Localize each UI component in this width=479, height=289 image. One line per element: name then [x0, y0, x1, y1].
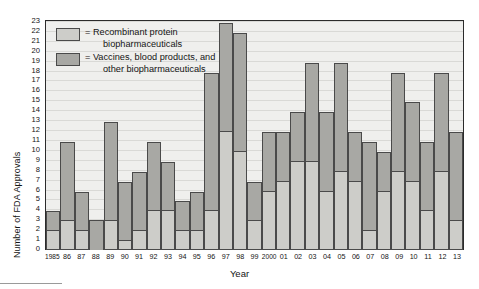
bar-segment-recombinant[interactable] — [377, 191, 391, 250]
y-tick-label: 6 — [36, 186, 40, 194]
bar-segment-recombinant[interactable] — [319, 191, 333, 250]
y-tick-label: 22 — [32, 27, 40, 35]
bar-segment-recombinant[interactable] — [449, 220, 463, 250]
y-tick-label: 23 — [32, 17, 40, 25]
x-tick-label: 90 — [117, 251, 131, 265]
x-tick-label: 99 — [247, 251, 261, 265]
legend-item: = Vaccines, blood products, and other bi… — [56, 52, 215, 75]
bar-column[interactable] — [434, 21, 448, 249]
bar-column[interactable] — [305, 21, 319, 249]
legend: = Recombinant protein biopharmaceuticals… — [56, 27, 215, 77]
bar-segment-recombinant[interactable] — [219, 131, 233, 250]
bar-segment-vaccines[interactable] — [204, 73, 218, 212]
legend-label-recombinant: = Recombinant protein biopharmaceuticals — [85, 27, 182, 50]
bar-column[interactable] — [405, 21, 419, 249]
bar-segment-vaccines[interactable] — [175, 201, 189, 231]
bar-segment-recombinant[interactable] — [46, 230, 60, 250]
bar-segment-vaccines[interactable] — [391, 73, 405, 172]
bar-segment-recombinant[interactable] — [204, 210, 218, 250]
bar-segment-recombinant[interactable] — [348, 181, 362, 250]
bar-column[interactable] — [290, 21, 304, 249]
bar-segment-vaccines[interactable] — [190, 192, 204, 232]
bar-segment-vaccines[interactable] — [420, 142, 434, 211]
bar-segment-recombinant[interactable] — [161, 210, 175, 250]
bar-column[interactable] — [391, 21, 405, 249]
bar-segment-vaccines[interactable] — [75, 192, 89, 232]
y-tick-label: 10 — [32, 146, 40, 154]
x-axis-title: Year — [0, 268, 479, 279]
bar-segment-vaccines[interactable] — [118, 182, 132, 241]
x-tick-label: 03 — [305, 251, 319, 265]
y-tick-label: 0 — [36, 245, 40, 253]
bar-segment-vaccines[interactable] — [247, 182, 261, 222]
bar-segment-vaccines[interactable] — [305, 63, 319, 162]
bar-segment-vaccines[interactable] — [319, 112, 333, 191]
bar-segment-recombinant[interactable] — [334, 171, 348, 250]
bar-segment-vaccines[interactable] — [434, 73, 448, 172]
bar-segment-recombinant[interactable] — [290, 161, 304, 250]
bar-segment-recombinant[interactable] — [175, 230, 189, 250]
bar-column[interactable] — [449, 21, 463, 249]
y-tick-label: 12 — [32, 126, 40, 134]
bar-segment-recombinant[interactable] — [104, 220, 118, 250]
bar-segment-vaccines[interactable] — [290, 112, 304, 162]
bar-segment-vaccines[interactable] — [348, 132, 362, 182]
bar-segment-vaccines[interactable] — [449, 132, 463, 221]
bar-segment-vaccines[interactable] — [233, 33, 247, 152]
bar-segment-vaccines[interactable] — [60, 142, 74, 221]
x-tick-label: 86 — [60, 251, 74, 265]
y-tick-label: 14 — [32, 106, 40, 114]
bar-segment-recombinant[interactable] — [262, 191, 276, 250]
bar-column[interactable] — [219, 21, 233, 249]
y-tick-label: 20 — [32, 47, 40, 55]
x-tick-label: 07 — [363, 251, 377, 265]
bar-segment-vaccines[interactable] — [46, 211, 60, 231]
y-tick-label: 8 — [36, 166, 40, 174]
bar-column[interactable] — [362, 21, 376, 249]
bar-segment-vaccines[interactable] — [161, 162, 175, 212]
bar-segment-vaccines[interactable] — [262, 132, 276, 191]
bar-segment-vaccines[interactable] — [362, 142, 376, 231]
bar-segment-vaccines[interactable] — [276, 132, 290, 182]
bar-segment-recombinant[interactable] — [420, 210, 434, 250]
x-tick-label: 2000 — [262, 251, 277, 265]
bar-segment-recombinant[interactable] — [233, 151, 247, 250]
x-tick-label: 01 — [276, 251, 290, 265]
bar-column[interactable] — [247, 21, 261, 249]
bar-segment-vaccines[interactable] — [219, 23, 233, 132]
bar-column[interactable] — [276, 21, 290, 249]
bar-segment-vaccines[interactable] — [377, 152, 391, 192]
bar-column[interactable] — [377, 21, 391, 249]
bar-segment-recombinant[interactable] — [118, 240, 132, 250]
bar-segment-vaccines[interactable] — [334, 63, 348, 172]
bar-segment-recombinant[interactable] — [305, 161, 319, 250]
legend-label-vaccines: = Vaccines, blood products, and other bi… — [85, 52, 215, 75]
bar-segment-vaccines[interactable] — [104, 122, 118, 221]
bar-segment-recombinant[interactable] — [60, 220, 74, 250]
bar-segment-recombinant[interactable] — [247, 220, 261, 250]
bar-segment-recombinant[interactable] — [132, 230, 146, 250]
y-tick-label: 18 — [32, 67, 40, 75]
bar-column[interactable] — [233, 21, 247, 249]
bar-column[interactable] — [334, 21, 348, 249]
x-tick-label: 09 — [392, 251, 406, 265]
bar-segment-recombinant[interactable] — [190, 230, 204, 250]
bar-column[interactable] — [420, 21, 434, 249]
y-tick-label: 9 — [36, 156, 40, 164]
bar-segment-recombinant[interactable] — [147, 210, 161, 250]
bar-segment-recombinant[interactable] — [405, 181, 419, 250]
bar-segment-recombinant[interactable] — [391, 171, 405, 250]
bar-segment-vaccines[interactable] — [132, 172, 146, 231]
bar-segment-recombinant[interactable] — [434, 171, 448, 250]
x-tick-label: 87 — [74, 251, 88, 265]
bar-segment-vaccines[interactable] — [89, 220, 103, 250]
y-tick-label: 3 — [36, 215, 40, 223]
bar-segment-vaccines[interactable] — [405, 102, 419, 181]
bar-segment-recombinant[interactable] — [276, 181, 290, 250]
bar-segment-recombinant[interactable] — [362, 230, 376, 250]
bar-segment-recombinant[interactable] — [75, 230, 89, 250]
bar-segment-vaccines[interactable] — [147, 142, 161, 211]
bar-column[interactable] — [348, 21, 362, 249]
bar-column[interactable] — [262, 21, 276, 249]
bar-column[interactable] — [319, 21, 333, 249]
